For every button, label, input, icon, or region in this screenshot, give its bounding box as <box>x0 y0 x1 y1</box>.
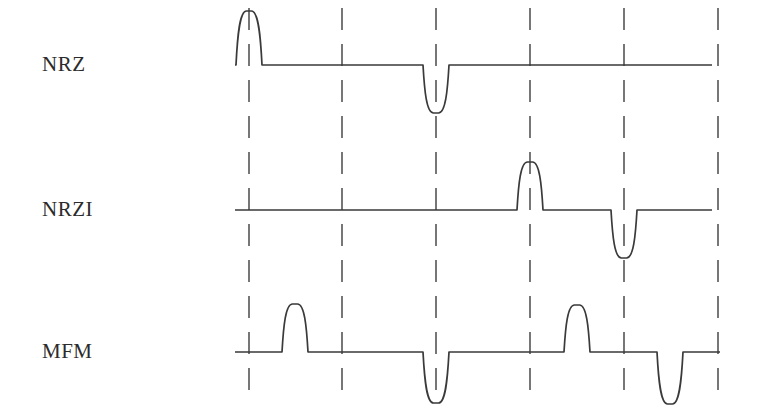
row-label-nrzi: NRZI <box>42 197 93 222</box>
gridlines-group <box>249 8 718 402</box>
waveform-plot-area <box>0 0 757 418</box>
waveform-trace-mfm <box>235 304 720 404</box>
waveform-traces-group <box>235 11 720 404</box>
row-label-mfm: MFM <box>42 339 93 364</box>
waveform-diagram: NRZ NRZI MFM <box>0 0 757 418</box>
row-label-nrz: NRZ <box>42 52 86 77</box>
waveform-trace-nrz <box>235 11 712 113</box>
waveform-trace-nrzi <box>235 162 712 258</box>
